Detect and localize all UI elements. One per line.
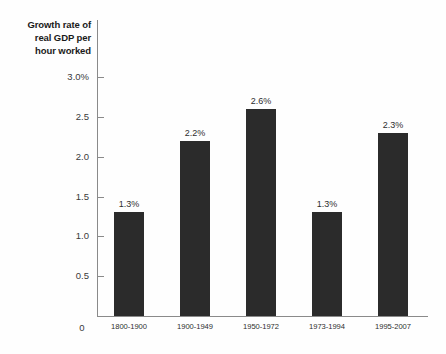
y-tick-label: 1.0 xyxy=(5,231,89,241)
chart-screenshot: Growth rate of real GDP per hour worked … xyxy=(0,0,446,354)
x-axis-category-label: 1973-1994 xyxy=(294,322,360,331)
bar-chart: Growth rate of real GDP per hour worked … xyxy=(0,0,446,354)
y-tick-label-text: 3.0% xyxy=(5,72,89,82)
bar xyxy=(246,109,276,316)
chart-title-line-3: hour worked xyxy=(8,44,91,57)
y-tick-mark xyxy=(98,236,104,237)
y-tick-mark xyxy=(98,157,104,158)
bar xyxy=(180,141,210,316)
y-tick-label: 2.0 xyxy=(5,152,89,162)
bar xyxy=(378,133,408,316)
y-tick-label-zero: 0 xyxy=(74,322,90,333)
bar-value-label: 1.3% xyxy=(297,199,357,209)
y-tick-mark xyxy=(98,117,104,118)
y-tick-mark xyxy=(98,77,104,78)
y-axis-line xyxy=(97,20,98,317)
bar xyxy=(312,212,342,316)
x-axis-category-label: 1950-1972 xyxy=(228,322,294,331)
chart-title: Growth rate of real GDP per hour worked xyxy=(8,18,91,58)
x-axis-category-label: 1800-1900 xyxy=(96,322,162,331)
x-axis-line xyxy=(97,316,428,317)
y-tick-label-text: 2.5 xyxy=(5,112,89,122)
y-tick-label: 3.0% xyxy=(5,72,89,82)
y-tick-label: 0.5 xyxy=(5,271,89,281)
bar-value-label: 2.3% xyxy=(363,120,423,130)
x-axis-category-label: 1995-2007 xyxy=(360,322,426,331)
bar xyxy=(114,212,144,316)
y-tick-label: 2.5 xyxy=(5,112,89,122)
y-tick-label: 1.5 xyxy=(5,192,89,202)
y-tick-label-text: 1.5 xyxy=(5,192,89,202)
bar-value-label: 2.6% xyxy=(231,96,291,106)
y-tick-label-text: 2.0 xyxy=(5,152,89,162)
x-axis-category-label: 1900-1949 xyxy=(162,322,228,331)
y-tick-mark xyxy=(98,197,104,198)
chart-title-line-1: Growth rate of xyxy=(8,18,91,31)
chart-title-line-2: real GDP per xyxy=(8,31,91,44)
bar-value-label: 1.3% xyxy=(99,199,159,209)
y-tick-label-text: 1.0 xyxy=(5,231,89,241)
bar-value-label: 2.2% xyxy=(165,128,225,138)
y-tick-mark xyxy=(98,276,104,277)
y-tick-label-text: 0.5 xyxy=(5,271,89,281)
